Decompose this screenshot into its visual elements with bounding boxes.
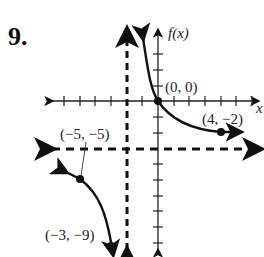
point-neg5-neg5 [76, 175, 84, 183]
point-neg3-neg9 [107, 242, 115, 250]
x-axis-label: x [255, 100, 263, 116]
graph: f(x) x (0, 0) (4, −2) (−5, −5) (−3, −9) [0, 0, 264, 257]
leader-line [81, 142, 86, 176]
y-axis [153, 30, 163, 250]
point-4-neg2 [217, 128, 225, 136]
label-point-4-neg2: (4, −2) [202, 111, 243, 128]
label-point-0-0: (0, 0) [165, 79, 198, 96]
label-point-neg5-neg5: (−5, −5) [60, 126, 109, 143]
label-point-neg3-neg9: (−3, −9) [45, 227, 94, 244]
y-axis-label: f(x) [168, 25, 189, 42]
point-0-0 [154, 97, 162, 105]
